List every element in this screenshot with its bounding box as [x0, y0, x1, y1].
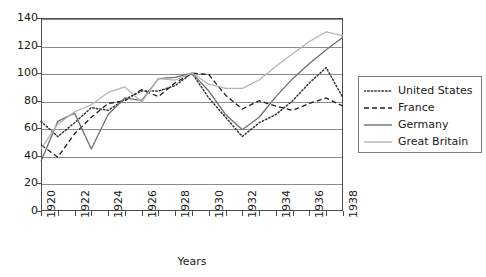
x-tick-mark-1931	[226, 211, 227, 216]
x-axis-title: Years	[41, 255, 343, 268]
legend-label: Great Britain	[398, 136, 468, 148]
y-tick-label-100: 100	[17, 67, 38, 78]
series-layer	[41, 18, 343, 211]
x-tick-label-1938: 1938	[348, 190, 359, 218]
x-tick-mark-1928	[175, 211, 176, 216]
x-tick-mark-1934	[276, 211, 277, 216]
y-tick-label-20: 20	[24, 177, 38, 188]
legend-swatch-icon	[364, 86, 392, 96]
legend-swatch-icon	[364, 137, 392, 147]
legend-label: Germany	[398, 119, 449, 131]
legend-item-united-states[interactable]: United States	[359, 82, 481, 99]
x-tick-mark-1924	[108, 211, 109, 216]
y-tick-label-120: 120	[17, 40, 38, 51]
series-line-great-britain	[41, 32, 343, 149]
y-tick-label-80: 80	[24, 95, 38, 106]
legend-item-great-britain[interactable]: Great Britain	[359, 133, 481, 150]
x-tick-mark-1930	[209, 211, 210, 216]
series-line-france	[41, 73, 343, 157]
y-tick-label-60: 60	[24, 122, 38, 133]
legend-swatch-icon	[364, 103, 392, 113]
x-tick-mark-1922	[75, 211, 76, 216]
legend-item-france[interactable]: France	[359, 99, 481, 116]
x-tick-mark-1921	[58, 211, 59, 216]
legend-label: France	[398, 102, 435, 114]
series-line-united-states	[41, 68, 343, 137]
x-tick-mark-1938	[343, 211, 344, 216]
legend-swatch-icon	[364, 120, 392, 130]
y-tick-label-40: 40	[24, 150, 38, 161]
y-tick-label-140: 140	[17, 12, 38, 23]
x-tick-mark-1932	[242, 211, 243, 216]
x-tick-mark-1925	[125, 211, 126, 216]
x-tick-mark-1933	[259, 211, 260, 216]
legend: United StatesFranceGermanyGreat Britain	[358, 76, 482, 153]
series-line-germany	[41, 37, 343, 161]
x-tick-mark-1920	[41, 211, 42, 216]
x-tick-mark-1937	[326, 211, 327, 216]
legend-item-germany[interactable]: Germany	[359, 116, 481, 133]
x-tick-mark-1935	[293, 211, 294, 216]
legend-label: United States	[398, 85, 473, 97]
x-tick-mark-1926	[142, 211, 143, 216]
x-tick-mark-1936	[309, 211, 310, 216]
x-tick-mark-1929	[192, 211, 193, 216]
chart-figure: 020406080100120140 192019221924192619281…	[0, 0, 486, 277]
